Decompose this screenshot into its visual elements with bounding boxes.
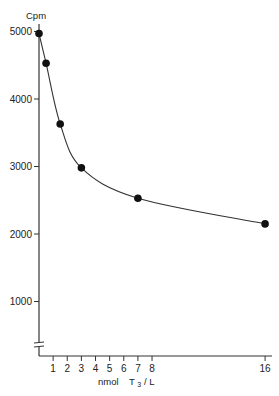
data-point — [56, 120, 64, 128]
axis-break-mark — [34, 342, 44, 343]
x-axis-title-prefix: nmol — [98, 376, 119, 387]
x-axis-title-suffix: / L — [144, 376, 155, 387]
axis-break-mark — [34, 346, 44, 347]
y-tick-label: 1000 — [10, 296, 33, 307]
y-tick-label: 5000 — [10, 26, 33, 37]
data-point — [261, 220, 269, 228]
y-axis: 10002000300040005000 — [10, 24, 44, 356]
x-tick-label: 1 — [50, 363, 56, 374]
x-tick-label: 5 — [107, 363, 113, 374]
data-point — [42, 59, 50, 67]
x-tick-label: 16 — [260, 363, 272, 374]
data-point — [35, 30, 43, 38]
x-axis-title-var: T — [129, 376, 135, 387]
standard-curve-chart: 10002000300040005000 1234567816 Cpm nmol… — [0, 0, 279, 396]
y-tick-label: 4000 — [10, 94, 33, 105]
data-point — [78, 164, 86, 172]
fitted-curve — [39, 34, 265, 224]
y-axis-title: Cpm — [26, 10, 46, 21]
y-tick-label: 2000 — [10, 229, 33, 240]
x-axis: 1234567816 — [39, 356, 272, 374]
data-point — [134, 194, 142, 202]
x-tick-label: 4 — [93, 363, 99, 374]
x-tick-label: 6 — [121, 363, 127, 374]
x-tick-label: 8 — [149, 363, 155, 374]
y-tick-label: 3000 — [10, 161, 33, 172]
x-tick-label: 3 — [79, 363, 85, 374]
x-tick-label: 2 — [64, 363, 70, 374]
data-points — [35, 30, 269, 228]
x-axis-title: nmol T 3 / L — [98, 376, 154, 389]
x-tick-label: 7 — [135, 363, 141, 374]
x-axis-title-sub: 3 — [137, 381, 141, 388]
